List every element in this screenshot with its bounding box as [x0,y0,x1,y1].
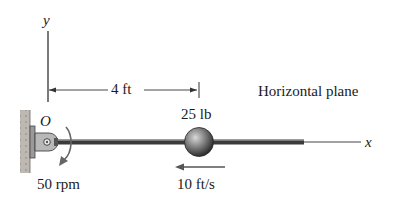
dimension-label: 4 ft [111,82,131,97]
y-axis-label: y [43,13,50,28]
diagram-canvas: y 4 ft O 25 lb Horizontal plane x 50 rpm… [0,0,393,202]
pin-bracket [30,126,58,158]
plane-note: Horizontal plane [258,84,358,99]
velocity-arrow [175,164,225,171]
x-axis-label: x [365,135,372,150]
wall-support [20,110,30,173]
rotation-arrow [59,127,71,166]
velocity-label: 10 ft/s [177,177,215,192]
angular-speed-label: 50 rpm [37,177,80,192]
ball-mass [185,128,214,157]
origin-label: O [40,114,51,129]
diagram-graphics [0,0,393,202]
mass-label: 25 lb [181,107,211,122]
rod [54,138,304,146]
